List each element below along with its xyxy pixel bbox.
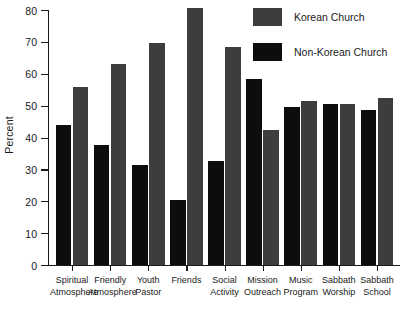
bar-non-korean-church: [170, 200, 186, 265]
bar-korean-church: [340, 104, 356, 265]
bar-korean-church: [111, 64, 127, 265]
y-axis-tick: 40: [41, 138, 48, 139]
legend-swatch-korean: [253, 8, 282, 26]
legend-item: Non-Korean Church: [253, 43, 387, 61]
x-axis-tick: [110, 266, 111, 271]
bar-non-korean-church: [323, 104, 339, 265]
y-axis-tick-label: 30: [25, 164, 37, 176]
y-axis-tick-label: 10: [25, 228, 37, 240]
bar-korean-church: [187, 8, 203, 265]
x-axis-tick: [263, 266, 264, 271]
bar-non-korean-church: [361, 110, 377, 265]
bar-non-korean-church: [132, 165, 148, 265]
y-axis-tick: 80: [41, 10, 48, 11]
x-axis-tick: [339, 266, 340, 271]
legend-label: Korean Church: [294, 11, 365, 23]
y-axis-tick: 50: [41, 106, 48, 107]
x-axis-tick: [377, 266, 378, 271]
y-axis-tick-label: 50: [25, 100, 37, 112]
y-axis-tick: 0: [41, 265, 48, 266]
x-axis-tick: [148, 266, 149, 271]
x-axis-label: Sabbath School: [355, 275, 399, 298]
y-axis-tick-label: 70: [25, 36, 37, 48]
bar-korean-church: [225, 47, 241, 265]
legend-item: Korean Church: [253, 8, 365, 26]
bar-non-korean-church: [246, 79, 262, 265]
bar-non-korean-church: [284, 107, 300, 265]
x-axis-tick: [301, 266, 302, 271]
y-axis-title: Percent: [0, 95, 18, 175]
y-axis-tick: 30: [41, 169, 48, 170]
y-axis-tick: 20: [41, 201, 48, 202]
y-axis-tick-label: 80: [25, 5, 37, 17]
y-axis-tick: 60: [41, 74, 48, 75]
bar-korean-church: [263, 130, 279, 265]
bar-non-korean-church: [56, 125, 72, 265]
bar-korean-church: [378, 98, 394, 265]
y-axis-tick-label: 40: [25, 132, 37, 144]
y-axis-tick-label: 60: [25, 68, 37, 80]
legend-label: Non-Korean Church: [294, 46, 387, 58]
x-axis-tick: [225, 266, 226, 271]
x-axis-tick: [186, 266, 187, 271]
bar-chart-figure: Percent 01020304050607080 Spiritual Atmo…: [0, 0, 417, 326]
y-axis-tick-label: 20: [25, 196, 37, 208]
x-axis-tick: [72, 266, 73, 271]
bar-non-korean-church: [208, 161, 224, 265]
y-axis-tick: 10: [41, 233, 48, 234]
legend-swatch-nonkorean: [253, 43, 282, 61]
bar-non-korean-church: [94, 145, 110, 265]
y-axis-tick: 70: [41, 42, 48, 43]
bar-korean-church: [73, 87, 89, 266]
y-axis-title-text: Percent: [3, 116, 15, 154]
y-axis-tick-label: 0: [31, 260, 37, 272]
bar-korean-church: [149, 43, 165, 265]
bar-korean-church: [301, 101, 317, 265]
